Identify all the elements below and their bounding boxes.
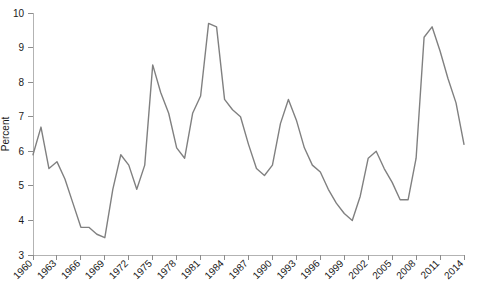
x-tick-label: 2014 xyxy=(442,257,466,281)
y-tick-label: 4 xyxy=(18,215,24,226)
x-tick-label: 1969 xyxy=(83,257,107,281)
x-axis: 1960196319661969197219751978198119841987… xyxy=(11,255,466,281)
x-tick-label: 2002 xyxy=(346,257,370,281)
x-tick-label: 1996 xyxy=(298,257,322,281)
x-tick-label: 1978 xyxy=(155,257,179,281)
x-tick-label: 1972 xyxy=(107,257,131,281)
x-tick-label: 1966 xyxy=(59,257,83,281)
x-tick-label: 2011 xyxy=(418,257,441,280)
x-tick-label: 1999 xyxy=(322,257,346,281)
x-tick-label: 1990 xyxy=(250,257,274,281)
unemployment-rate-line-chart: 345678910 196019631966196919721975197819… xyxy=(0,0,487,298)
y-tick-label: 3 xyxy=(18,250,24,261)
x-tick-label: 1993 xyxy=(274,257,298,281)
x-tick-label: 1963 xyxy=(35,257,59,281)
y-tick-label: 5 xyxy=(18,180,24,191)
x-tick-label: 2008 xyxy=(394,257,418,281)
y-tick-label: 6 xyxy=(18,146,24,157)
x-tick-label: 1960 xyxy=(11,257,35,281)
y-axis-title-label: Percent xyxy=(0,117,11,152)
y-axis: 345678910 xyxy=(13,8,33,261)
x-tick-label: 1987 xyxy=(226,257,250,281)
unemployment-rate-line xyxy=(33,23,464,237)
y-tick-label: 7 xyxy=(18,111,24,122)
y-tick-label: 9 xyxy=(18,42,24,53)
x-tick-label: 1975 xyxy=(131,257,155,281)
x-tick-label: 2005 xyxy=(370,257,394,281)
x-tick-label: 1984 xyxy=(202,257,226,281)
data-series-line xyxy=(33,23,464,237)
chart-canvas: 345678910 196019631966196919721975197819… xyxy=(0,0,487,298)
x-tick-label: 1981 xyxy=(179,257,203,281)
y-tick-label: 10 xyxy=(13,8,25,19)
y-tick-label: 8 xyxy=(18,77,24,88)
y-axis-title: Percent xyxy=(0,117,11,152)
